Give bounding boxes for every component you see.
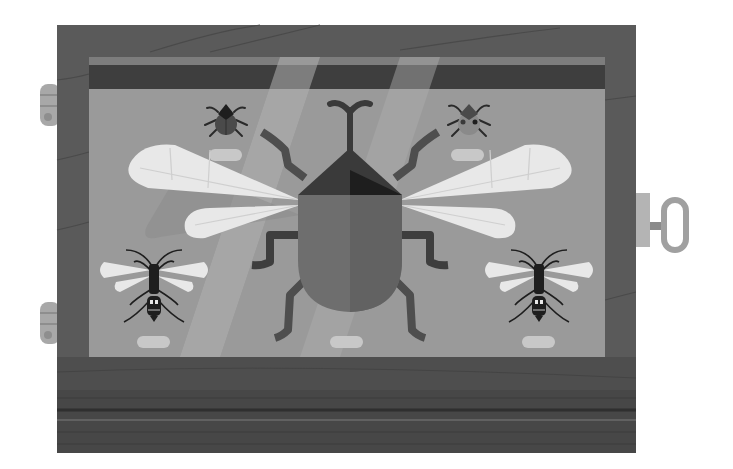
key <box>636 193 686 250</box>
display-case-scene <box>0 0 733 469</box>
